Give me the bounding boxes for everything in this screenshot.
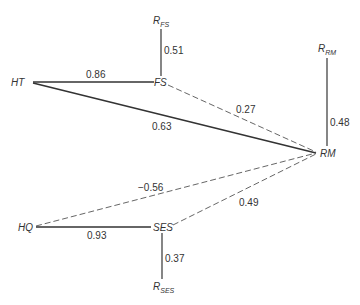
coef-hq-ses: 0.93 <box>87 230 107 241</box>
node-ses-label: SES <box>153 222 173 233</box>
coef-rfs-fs: 0.51 <box>164 45 184 56</box>
coef-rrm-rm: 0.48 <box>330 117 350 128</box>
edge-fs-rm <box>168 85 316 152</box>
coef-fs-rm: 0.27 <box>236 104 256 115</box>
node-hq-label: HQ <box>18 222 33 233</box>
edge-hq-rm <box>36 153 316 226</box>
node-rrm-label: RRM <box>318 43 336 56</box>
coef-ht-fs: 0.86 <box>86 69 106 80</box>
coef-rses-ses: 0.37 <box>165 253 185 264</box>
coef-ht-rm: 0.63 <box>152 121 172 132</box>
node-rses-label: RSES <box>153 281 175 294</box>
edge-ht-rm <box>33 83 316 153</box>
node-rfs-label: RFS <box>153 15 170 28</box>
edge-ses-rm <box>173 154 316 225</box>
coef-ses-rm: 0.49 <box>239 197 259 208</box>
coef-hq-rm: −0.56 <box>138 182 164 193</box>
node-ht-label: HT <box>11 77 25 88</box>
node-fs-label: FS <box>154 77 167 88</box>
node-rm-label: RM <box>320 148 336 159</box>
path-diagram: HT FS RM HQ SES RFS RRM RSES 0.86 0.63 0… <box>0 0 360 305</box>
